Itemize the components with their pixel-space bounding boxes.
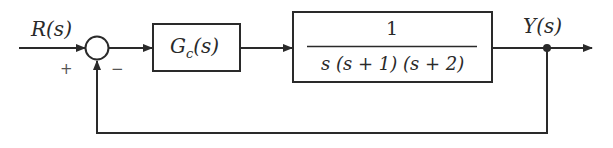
controller-label: Gc(s) bbox=[170, 34, 219, 61]
plant-numerator: 1 bbox=[386, 17, 398, 39]
block-diagram: R(s) + − Gc(s) 1 s (s + 1) (s + 2) Y(s) bbox=[0, 0, 613, 148]
plus-sign: + bbox=[60, 60, 73, 78]
plant-denominator: s (s + 1) (s + 2) bbox=[321, 53, 464, 74]
summing-junction bbox=[86, 37, 109, 60]
output-label: Y(s) bbox=[523, 14, 562, 38]
minus-sign: − bbox=[111, 60, 124, 78]
input-label: R(s) bbox=[31, 17, 72, 41]
diagram-lines bbox=[0, 0, 613, 148]
